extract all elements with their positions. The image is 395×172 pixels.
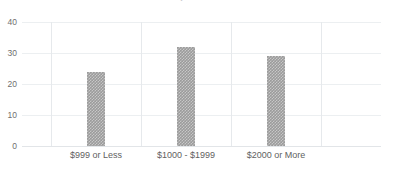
gridline (22, 84, 381, 85)
y-axis-tick-label: 40 (8, 17, 17, 27)
x-axis-tick-label: $999 or Less (70, 150, 122, 160)
x-axis-tick-label: $2000 or More (247, 150, 306, 160)
gridline (22, 22, 381, 23)
x-axis-tick-label: $1000 - $1999 (157, 150, 215, 160)
bar-chart: Amount Spent on Purchase 403020100 $999 … (0, 0, 395, 172)
gridline (22, 146, 381, 147)
category-separator-line (321, 22, 322, 146)
gridline (22, 115, 381, 116)
y-axis-tick-label: 30 (8, 48, 17, 58)
chart-title: Amount Spent on Purchase (0, 0, 395, 1)
y-axis-tick-label: 20 (8, 79, 17, 89)
bar[interactable] (87, 72, 105, 146)
gridline (22, 53, 381, 54)
plot-area: 403020100 (22, 22, 381, 146)
category-separator-line (51, 22, 52, 146)
bar[interactable] (267, 56, 285, 146)
y-axis-tick-label: 10 (8, 110, 17, 120)
category-separator-line (141, 22, 142, 146)
category-separator-line (231, 22, 232, 146)
bar[interactable] (177, 47, 195, 146)
y-axis-tick-label: 0 (12, 141, 17, 151)
